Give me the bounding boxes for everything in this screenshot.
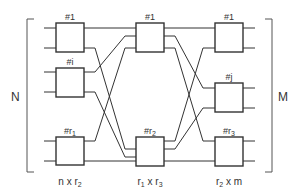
ingress-switch-r1 (56, 137, 84, 165)
output-count-label: M (278, 90, 288, 104)
egress-switch-j-label: #j (225, 72, 232, 82)
middle-switch-1-label: #1 (145, 12, 155, 22)
ingress-switch-1-label: #1 (65, 12, 75, 22)
ingress-switch-i-label: #i (66, 57, 73, 67)
clos-network-diagram: N M #1 #i #r1 #1 #r2 #1 #j #r3 n x r2 r1… (0, 0, 300, 194)
egress-switch-1-label: #1 (224, 12, 234, 22)
ingress-switch-i (56, 68, 84, 97)
left-bracket (27, 19, 34, 172)
ingress-input-lines (44, 28, 56, 161)
egress-output-lines (243, 28, 255, 161)
ingress-dimension-label: n x r2 (58, 176, 81, 188)
middle-dimension-label: r1 x r3 (137, 176, 162, 188)
egress-dimension-label: r2 x m (216, 176, 242, 188)
egress-switch-j (215, 83, 243, 112)
ingress-switch-1 (56, 23, 84, 52)
ingress-switch-r1-label: #r1 (64, 126, 76, 137)
ingress-to-middle-links (84, 28, 136, 161)
middle-switch-1 (136, 23, 164, 52)
input-count-label: N (11, 90, 20, 104)
egress-switch-1 (215, 23, 243, 52)
diagram-svg: N M #1 #i #r1 #1 #r2 #1 #j #r3 n x r2 r1… (0, 0, 300, 194)
egress-switch-r3 (215, 137, 243, 166)
right-bracket (265, 19, 272, 172)
middle-switch-r2 (136, 137, 164, 166)
middle-to-egress-links (164, 28, 215, 161)
middle-switch-r2-label: #r2 (144, 126, 156, 137)
egress-switch-r3-label: #r3 (223, 126, 235, 137)
